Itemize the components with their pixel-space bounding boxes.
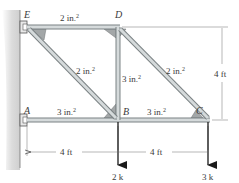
member-label-bc: 3 in.2 <box>147 107 166 117</box>
joint-label-b: B <box>123 106 129 117</box>
pin-support-e <box>20 21 27 33</box>
member-eb <box>29 29 116 118</box>
truss-members <box>27 27 210 120</box>
wall-support <box>2 10 20 170</box>
member-label-eb: 2 in.2 <box>76 66 95 76</box>
load-label-b: 2 k <box>112 172 124 182</box>
truss-diagram: E D A B C 2 in.2 2 in.2 3 in.2 2 in.2 3 … <box>0 0 239 183</box>
dimension-label-ab: 4 ft <box>60 147 73 157</box>
joint-label-e: E <box>23 9 30 20</box>
dimension-label-height: 4 ft <box>214 69 227 79</box>
member-label-bd: 3 in.2 <box>122 74 141 84</box>
joint-label-d: D <box>114 9 123 20</box>
dimension-label-bc: 4 ft <box>150 147 163 157</box>
load-label-c: 3 k <box>202 172 214 182</box>
joint-label-c: C <box>196 105 203 116</box>
dimension-lines <box>27 27 228 156</box>
load-arrows <box>118 122 208 165</box>
member-label-ed: 2 in.2 <box>60 13 79 23</box>
joint-label-a: A <box>23 105 31 116</box>
member-label-dc: 2 in.2 <box>166 66 185 76</box>
member-label-ab: 3 in.2 <box>57 107 76 117</box>
